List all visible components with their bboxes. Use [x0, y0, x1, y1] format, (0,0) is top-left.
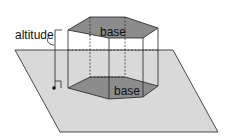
altitude-label: altitude: [15, 28, 54, 42]
top-base-label: base: [100, 25, 126, 39]
prism-diagram: altitude base base: [0, 0, 226, 140]
bottom-base-label: base: [114, 84, 140, 98]
altitude-foot-dot: [52, 86, 56, 90]
